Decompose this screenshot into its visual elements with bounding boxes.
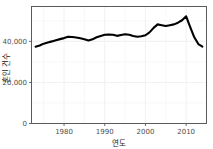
chart-canvas: 1980199020002010 020,00040,000 연도 혼인 건수 <box>0 0 213 149</box>
line-chart: 1980199020002010 020,00040,000 연도 혼인 건수 <box>0 0 213 149</box>
y-axis-title: 혼인 건수 <box>1 53 11 83</box>
y-tick-label: 40,000 <box>3 38 28 46</box>
plot-panel-background <box>32 7 207 124</box>
x-tick-label: 2000 <box>137 128 155 136</box>
y-tick-label: 0 <box>23 120 27 128</box>
x-tick-label: 1990 <box>96 128 114 136</box>
x-tick-label: 1980 <box>55 128 73 136</box>
x-tick-label: 2010 <box>177 128 195 136</box>
x-axis-title: 연도 <box>112 139 126 148</box>
